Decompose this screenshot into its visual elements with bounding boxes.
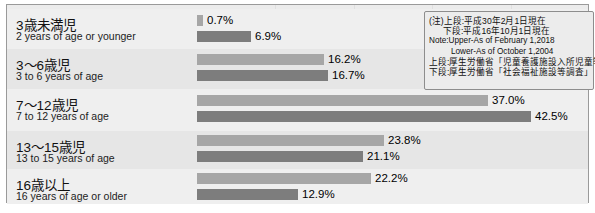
category-label-cell: 3〜6歳児 3 to 6 years of age	[16, 49, 191, 89]
bar-value-upper: 16.2%	[328, 54, 361, 65]
bar-upper	[197, 135, 384, 146]
bar-lower	[197, 70, 328, 81]
note-line-6: 下段:厚生労働省「社会福祉施設等調査」	[429, 67, 589, 77]
note-line-5: 上段:厚生労働省「児童養護施設入所児童等調査」	[429, 57, 589, 67]
bar-zone: 22.2% 12.9%	[197, 169, 588, 204]
category-label-en: 3 to 6 years of age	[16, 70, 103, 82]
note-box: (注)上段:平成30年2月1日現在 下段:平成16年10月1日現在 Note:U…	[424, 11, 594, 90]
bar-lower	[197, 111, 531, 122]
chart-row: 16歳以上 16 years of age or older 22.2% 12.…	[7, 169, 588, 204]
category-label-en: 2 years of age or younger	[16, 30, 136, 42]
chart-row: 7〜12歳児 7 to 12 years of age 37.0% 42.5%	[7, 89, 588, 131]
bar-value-lower: 16.7%	[332, 70, 365, 81]
category-label-en: 7 to 12 years of age	[16, 110, 109, 122]
note-line-3: Note:Upper-As of February 1,2018	[429, 36, 589, 46]
bar-lower	[197, 31, 251, 42]
bar-upper	[197, 95, 488, 106]
note-line-4: Lower-As of October 1,2004	[429, 47, 589, 57]
bar-zone: 23.8% 21.1%	[197, 131, 588, 169]
bar-upper	[197, 173, 371, 184]
bar-upper	[197, 15, 203, 26]
category-label-en: 16 years of age or older	[16, 190, 127, 202]
bar-upper	[197, 54, 324, 65]
bar-value-lower: 21.1%	[367, 151, 400, 162]
bar-value-lower: 6.9%	[255, 31, 281, 42]
bar-lower	[197, 151, 363, 162]
category-label-en: 13 to 15 years of age	[16, 152, 115, 164]
category-label-cell: 13〜15歳児 13 to 15 years of age	[16, 131, 191, 169]
chart-frame: 3歳未満児 2 years of age or younger 0.7% 6.9…	[6, 4, 589, 203]
bar-value-lower: 42.5%	[535, 111, 568, 122]
bar-value-lower: 12.9%	[302, 189, 335, 200]
bar-zone: 37.0% 42.5%	[197, 89, 588, 131]
bar-value-upper: 37.0%	[492, 95, 525, 106]
bar-value-upper: 22.2%	[375, 173, 408, 184]
category-label-cell: 7〜12歳児 7 to 12 years of age	[16, 89, 191, 131]
category-label-cell: 16歳以上 16 years of age or older	[16, 169, 191, 204]
note-line-1: (注)上段:平成30年2月1日現在	[429, 16, 589, 26]
bar-value-upper: 23.8%	[388, 135, 421, 146]
note-line-2: 下段:平成16年10月1日現在	[429, 26, 589, 36]
chart-row: 13〜15歳児 13 to 15 years of age 23.8% 21.1…	[7, 131, 588, 169]
bar-value-upper: 0.7%	[207, 15, 233, 26]
category-label-cell: 3歳未満児 2 years of age or younger	[16, 9, 191, 49]
bar-lower	[197, 189, 298, 200]
